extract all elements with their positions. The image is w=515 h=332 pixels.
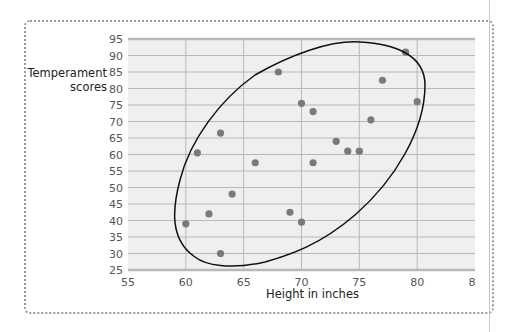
data-point (205, 210, 212, 217)
y-tick-label: 85 (109, 66, 123, 79)
y-axis-ticks: 253035404550556065707580859095 (109, 33, 123, 277)
data-point (252, 159, 259, 166)
y-tick-label: 95 (109, 33, 123, 46)
y-tick-label: 80 (109, 83, 123, 96)
data-point (286, 209, 293, 216)
data-point (275, 68, 282, 75)
y-tick-label: 55 (109, 165, 123, 178)
y-tick-label: 40 (109, 215, 123, 228)
y-tick-label: 90 (109, 50, 123, 63)
x-tick-label: 55 (121, 276, 135, 289)
data-point (367, 116, 374, 123)
data-point (309, 108, 316, 115)
y-tick-label: 75 (109, 99, 123, 112)
y-axis-label-line2: scores (70, 80, 107, 94)
data-point (309, 159, 316, 166)
data-point (356, 148, 363, 155)
data-point (194, 149, 201, 156)
scatter-plot: 253035404550556065707580859095 556065707… (0, 0, 515, 332)
x-tick-label: 80 (410, 276, 424, 289)
y-tick-label: 65 (109, 132, 123, 145)
y-tick-label: 35 (109, 231, 123, 244)
y-axis-label-line1: Temperament (26, 66, 107, 80)
x-tick-label: 60 (179, 276, 193, 289)
y-tick-label: 45 (109, 198, 123, 211)
x-tick-label: 65 (237, 276, 251, 289)
data-point (344, 148, 351, 155)
y-tick-label: 50 (109, 182, 123, 195)
y-tick-label: 30 (109, 248, 123, 261)
y-tick-label: 70 (109, 116, 123, 129)
data-point (229, 191, 236, 198)
y-tick-label: 60 (109, 149, 123, 162)
data-point (298, 100, 305, 107)
data-point (182, 220, 189, 227)
data-point (217, 129, 224, 136)
data-point (333, 138, 340, 145)
x-axis-label: Height in inches (266, 287, 359, 301)
data-point (414, 98, 421, 105)
data-point (379, 77, 386, 84)
x-tick-label: 8 (469, 276, 476, 289)
data-point (298, 219, 305, 226)
data-point (217, 250, 224, 257)
